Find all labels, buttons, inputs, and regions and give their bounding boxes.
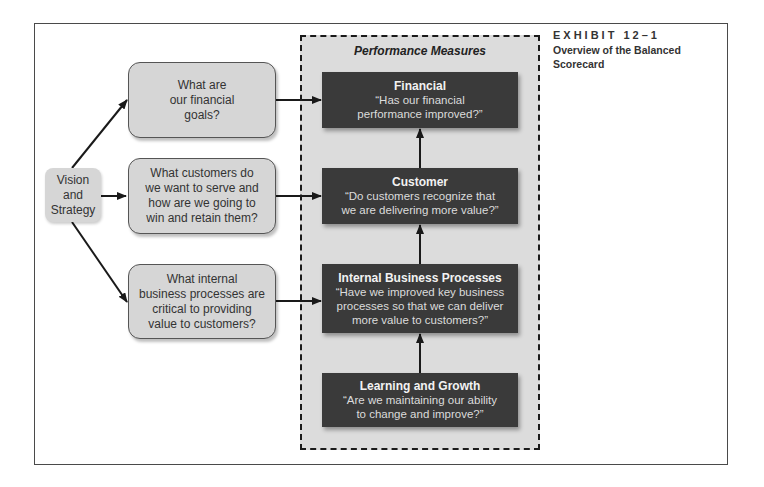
financial-measure-title: Financial (394, 79, 446, 93)
financial-measure-box: Financial “Has our financial performance… (322, 72, 518, 128)
learning-growth-measure-title: Learning and Growth (360, 379, 481, 393)
financial-question-box: What are our financial goals? (128, 62, 276, 138)
arrow-vision-to-financial-question (72, 100, 127, 168)
learning-growth-measure-box: Learning and Growth “Are we maintaining … (322, 373, 518, 427)
learning-growth-measure-question: “Are we maintaining our ability to chang… (343, 393, 497, 421)
financial-measure-question: “Has our financial performance improved?… (357, 93, 482, 121)
internal-question-box: What internal business processes are cri… (128, 264, 276, 339)
internal-process-measure-question: “Have we improved key business processes… (336, 285, 505, 327)
internal-process-measure-box: Internal Business Processes “Have we imp… (322, 264, 518, 333)
customer-question-box: What customers do we want to serve and h… (128, 158, 276, 234)
customer-measure-title: Customer (392, 175, 448, 189)
customer-measure-question: “Do customers recognize that we are deli… (341, 189, 498, 217)
customer-measure-box: Customer “Do customers recognize that we… (322, 168, 518, 224)
arrow-vision-to-internal-question (72, 222, 127, 302)
vision-and-strategy-box: Vision and Strategy (45, 168, 101, 222)
internal-process-measure-title: Internal Business Processes (338, 271, 501, 285)
